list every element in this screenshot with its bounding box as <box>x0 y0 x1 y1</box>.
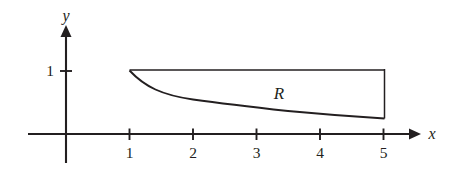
x-tick-label-1: 1 <box>119 145 141 161</box>
x-tick-label-2: 2 <box>182 145 204 161</box>
x-tick-label-3: 3 <box>246 145 268 161</box>
region-lower-curve <box>130 71 385 119</box>
x-axis-arrowhead <box>409 129 421 140</box>
y-axis-label: y <box>56 8 76 24</box>
x-tick-label-4: 4 <box>309 145 331 161</box>
x-tick-label-5: 5 <box>373 145 395 161</box>
figure-canvas: y x 1 1 2 3 4 5 R <box>0 0 460 178</box>
y-tick-label-1: 1 <box>39 63 61 79</box>
region-label-r: R <box>267 85 291 102</box>
x-axis-label: x <box>422 126 442 142</box>
y-axis-arrowhead <box>61 25 72 37</box>
